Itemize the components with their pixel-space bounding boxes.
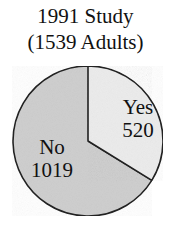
slice-label-no-value: 1019 bbox=[22, 159, 82, 182]
slice-label-yes-name: Yes bbox=[108, 96, 168, 119]
slice-label-yes: Yes 520 bbox=[108, 96, 168, 142]
slice-label-no-name: No bbox=[22, 136, 82, 159]
slice-label-no: No 1019 bbox=[22, 136, 82, 182]
slice-label-yes-value: 520 bbox=[108, 119, 168, 142]
